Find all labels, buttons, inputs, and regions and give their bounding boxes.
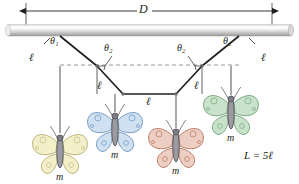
mass-label-blue: m [111, 150, 118, 160]
total-length-label: L = 5ℓ [244, 150, 273, 161]
theta1-arc-right [249, 38, 255, 44]
mass-label-green: m [227, 133, 234, 143]
segment-label-center: ℓ [146, 96, 151, 107]
string-chain [60, 36, 239, 94]
segment-label-mid-right: ℓ [194, 80, 199, 91]
mass-label-yellow: m [56, 172, 63, 182]
theta2-label-right: θ₂ [177, 43, 185, 53]
segment-label-mid-left: ℓ [97, 80, 102, 91]
mass-label-red: m [172, 166, 179, 176]
span-label: D [139, 3, 148, 15]
support-rod [5, 25, 293, 37]
chain-nodes [95, 64, 203, 95]
theta1-label-right: θ₁ [223, 36, 231, 46]
yellow-butterfly [33, 126, 88, 173]
segment-label-upper-right: ℓ [261, 52, 266, 63]
butterfly-mobile-figure: D θ₁ θ₁ θ₂ θ₂ ℓ ℓ ℓ ℓ ℓ m m m m L = 5ℓ [0, 0, 299, 184]
theta1-label-left: θ₁ [50, 36, 58, 46]
segment-label-upper-left: ℓ [29, 52, 34, 63]
theta2-label-left: θ₂ [104, 43, 112, 53]
